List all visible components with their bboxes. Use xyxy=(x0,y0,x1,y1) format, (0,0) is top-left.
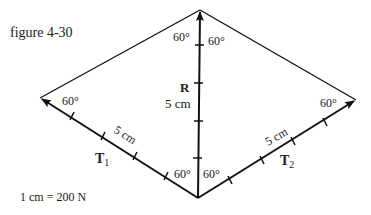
t2-label: T2 xyxy=(280,153,294,170)
vector-t1 xyxy=(42,99,198,198)
angle-label-r-left: 60° xyxy=(173,30,190,44)
angle-label-t1-tip: 60° xyxy=(62,94,79,108)
angle-label-t2-tip: 60° xyxy=(320,96,337,110)
vector-t2 xyxy=(198,101,354,198)
angle-label-r-right: 60° xyxy=(208,34,225,48)
scale-note: 1 cm = 200 N xyxy=(20,190,86,204)
vector-diagram: figure 4-30 60° 60° R 5 cm 60° 5 cm T1 6… xyxy=(0,0,371,215)
closing-line-right xyxy=(200,10,356,100)
r-label: R xyxy=(180,80,190,95)
r-length-label: 5 cm xyxy=(165,96,191,111)
angle-label-t1-base: 60° xyxy=(174,167,191,181)
t2-length-label: 5 cm xyxy=(263,124,291,148)
angle-label-t2-base: 60° xyxy=(203,167,220,181)
t1-length-label: 5 cm xyxy=(111,123,139,148)
t1-label: T1 xyxy=(95,151,109,168)
figure-caption: figure 4-30 xyxy=(10,25,73,40)
closing-line-left xyxy=(40,10,200,98)
